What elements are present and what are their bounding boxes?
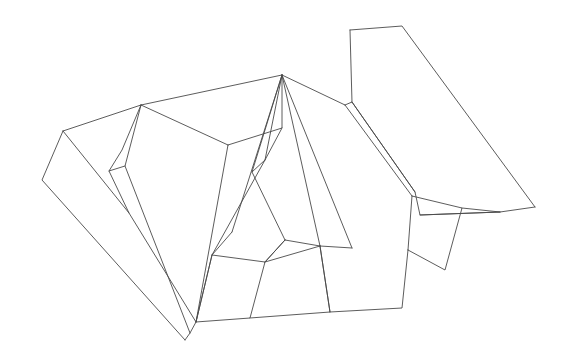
wireframe-svg	[0, 0, 567, 363]
face-bottom-tab-right	[320, 246, 408, 312]
drawing-canvas	[0, 0, 567, 363]
